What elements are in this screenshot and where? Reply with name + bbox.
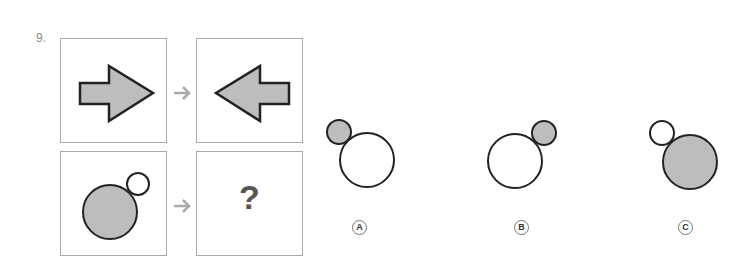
option-c-small	[650, 121, 674, 145]
option-b-label[interactable]: B	[514, 220, 529, 235]
arrow-right-shape	[80, 66, 153, 121]
small-white-circle	[127, 173, 149, 195]
option-b-small	[532, 121, 556, 145]
transition-arrow-icon	[174, 87, 189, 212]
arrow-left-shape	[216, 66, 289, 121]
option-a-label[interactable]: A	[352, 220, 367, 235]
option-c-label[interactable]: C	[678, 220, 693, 235]
figures	[0, 0, 754, 274]
option-c-large	[663, 135, 717, 189]
large-gray-circle	[83, 185, 137, 239]
option-b-large	[488, 134, 542, 188]
option-a-small	[327, 120, 351, 144]
